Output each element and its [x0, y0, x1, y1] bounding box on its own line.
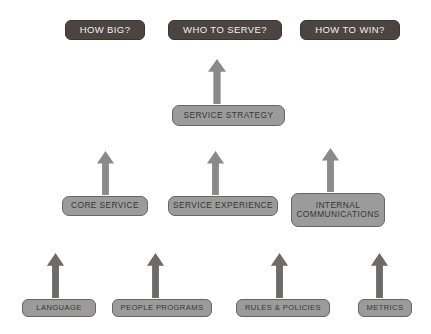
arrow-service-exp-arrow-icon — [206, 150, 225, 196]
pillars-core-service[interactable]: CORE SERVICE — [62, 196, 148, 216]
arrow-people-programs-arrow-icon — [146, 252, 165, 299]
arrow-internal-comms-arrow-icon — [321, 147, 340, 193]
foundations-metrics[interactable]: METRICS — [358, 299, 412, 317]
questions-who-to-serve[interactable]: WHO TO SERVE? — [168, 20, 282, 40]
arrow-metrics-arrow-icon — [370, 252, 389, 299]
foundations-language[interactable]: LANGUAGE — [22, 299, 96, 317]
arrow-language-arrow-icon — [46, 252, 65, 299]
pillars-service-experience[interactable]: SERVICE EXPERIENCE — [168, 196, 278, 216]
diagram-canvas: HOW BIG?WHO TO SERVE?HOW TO WIN?CORE SER… — [0, 0, 431, 334]
questions-how-big[interactable]: HOW BIG? — [65, 20, 145, 40]
node-service-strategy[interactable]: SERVICE STRATEGY — [172, 105, 285, 126]
questions-how-to-win[interactable]: HOW TO WIN? — [300, 20, 400, 40]
foundations-people-programs[interactable]: PEOPLE PROGRAMS — [112, 299, 212, 317]
foundations-rules-policies[interactable]: RULES & POLICIES — [236, 299, 330, 317]
pillars-internal-communications[interactable]: INTERNAL COMMUNICATIONS — [291, 193, 385, 227]
arrow-rules-policies-arrow-icon — [270, 252, 289, 299]
arrow-strategy-arrow-icon — [207, 58, 227, 105]
arrow-core-service-arrow-icon — [96, 150, 115, 196]
